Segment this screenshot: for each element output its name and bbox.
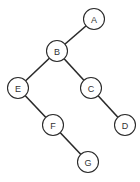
node-e: E	[8, 78, 29, 99]
node-a: A	[84, 9, 105, 30]
node-c: C	[81, 78, 102, 99]
node-label: G	[84, 158, 91, 168]
node-label: B	[54, 47, 60, 57]
node-label: C	[88, 84, 95, 94]
node-label: A	[91, 15, 97, 25]
node-b: B	[47, 41, 68, 62]
node-f: F	[43, 115, 64, 136]
binary-tree-diagram: ABCDEFG	[0, 0, 140, 182]
tree-nodes: ABCDEFG	[8, 9, 136, 173]
tree-edges	[18, 19, 125, 162]
node-label: D	[122, 121, 129, 131]
node-label: E	[15, 84, 21, 94]
node-d: D	[115, 115, 136, 136]
node-g: G	[78, 152, 99, 173]
node-label: F	[50, 121, 56, 131]
